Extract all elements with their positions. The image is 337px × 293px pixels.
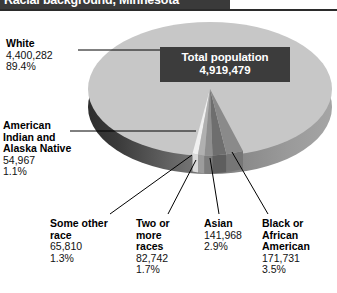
pie-label-asian-pct: 2.9% xyxy=(204,241,256,253)
pie-front-two-or-more-races xyxy=(205,155,213,173)
pie-front-black-african-american xyxy=(227,151,244,172)
pie-front-some-other-race xyxy=(198,155,205,174)
pie-label-white-name: White xyxy=(6,38,78,50)
pie-label-white: White 4,400,282 89.4% xyxy=(6,38,78,73)
pie-label-two-or-more-races: Two or more races 82,742 1.7% xyxy=(136,218,190,276)
total-population-value: 4,919,479 xyxy=(166,64,284,77)
title-divider xyxy=(0,9,337,11)
pie-label-asian: Asian 141,968 2.9% xyxy=(204,218,256,253)
chart-title-bar: Racial background, Minnesota xyxy=(0,0,230,9)
pie-label-american-indian: American Indian and Alaska Native 54,967… xyxy=(3,120,77,178)
pie-label-some-other-race: Some other race 65,810 1.3% xyxy=(50,218,116,264)
pie-label-black-african-american-pct: 3.5% xyxy=(262,264,334,276)
pie-label-two-or-more-races-name: Two or more races xyxy=(136,218,190,253)
page-title: Racial background, Minnesota xyxy=(4,0,179,7)
pie-label-some-other-race-name: Some other race xyxy=(50,218,116,241)
pie-label-white-pct: 89.4% xyxy=(6,61,78,73)
pie-front-american-indian xyxy=(193,154,199,173)
pie-label-asian-name: Asian xyxy=(204,218,256,230)
pie-label-black-african-american: Black or African American 171,731 3.5% xyxy=(262,218,334,276)
pie-label-black-african-american-name: Black or African American xyxy=(262,218,334,253)
pie-label-some-other-race-count: 65,810 xyxy=(50,241,116,253)
pie-label-two-or-more-races-pct: 1.7% xyxy=(136,264,190,276)
pie-front-asian xyxy=(213,154,227,173)
pie-label-american-indian-pct: 1.1% xyxy=(3,166,77,178)
total-population-label: Total population xyxy=(166,51,284,64)
pie-label-american-indian-name: American Indian and Alaska Native xyxy=(3,120,77,155)
pie-label-some-other-race-pct: 1.3% xyxy=(50,253,116,265)
total-population-callout: Total population 4,919,479 xyxy=(160,47,290,82)
